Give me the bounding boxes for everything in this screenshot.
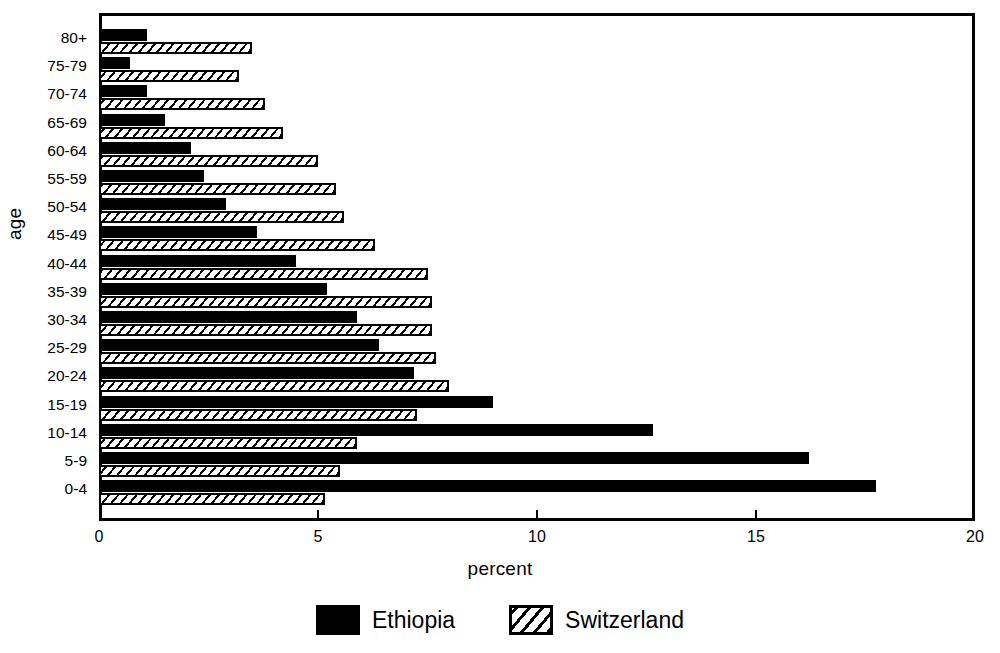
bar-switzerland [99, 465, 340, 477]
chart-legend: Ethiopia Switzerland [0, 605, 1000, 635]
bar-switzerland [99, 409, 417, 421]
y-axis-tick-label: 20-24 [47, 368, 87, 384]
bar-ethiopia [99, 170, 204, 182]
bar-row [99, 452, 975, 480]
bar-ethiopia [99, 311, 357, 323]
bar-ethiopia [99, 452, 809, 464]
bar-row [99, 170, 975, 198]
legend-label-ethiopia: Ethiopia [372, 607, 455, 634]
bars-layer [99, 13, 975, 521]
bar-row [99, 114, 975, 142]
y-axis-tick-label: 30-34 [47, 312, 87, 328]
y-axis-tick-label: 70-74 [47, 86, 87, 102]
bar-ethiopia [99, 283, 327, 295]
bar-ethiopia [99, 29, 147, 41]
y-axis-tick-label: 10-14 [47, 425, 87, 441]
x-axis-tick-mark [755, 510, 757, 521]
legend-item-ethiopia: Ethiopia [316, 605, 455, 635]
y-axis-tick-label: 15-19 [47, 397, 87, 413]
y-axis-tick-label: 0-4 [65, 481, 87, 497]
x-axis-tick-label: 15 [747, 528, 765, 546]
x-axis-tick-mark [317, 510, 319, 521]
y-axis-tick-label: 55-59 [47, 171, 87, 187]
bar-row [99, 85, 975, 113]
bar-row [99, 424, 975, 452]
x-axis-tick-label: 10 [528, 528, 546, 546]
x-axis-tick-mark [536, 510, 538, 521]
y-axis-tick-label: 40-44 [47, 256, 87, 272]
bar-switzerland [99, 296, 432, 308]
bar-ethiopia [99, 480, 876, 492]
x-axis-tick-label: 20 [966, 528, 984, 546]
y-axis-tick-label: 65-69 [47, 115, 87, 131]
population-pyramid-chart: age 80+75-7970-7465-6960-6455-5950-5445-… [0, 0, 1000, 653]
bar-row [99, 198, 975, 226]
bar-ethiopia [99, 226, 257, 238]
bar-row [99, 57, 975, 85]
bar-row [99, 255, 975, 283]
bar-switzerland [99, 42, 252, 54]
bar-row [99, 226, 975, 254]
bar-switzerland [99, 98, 265, 110]
bar-switzerland [99, 324, 432, 336]
bar-row [99, 367, 975, 395]
bar-switzerland [99, 268, 428, 280]
legend-item-switzerland: Switzerland [509, 605, 684, 635]
legend-swatch-hatch-icon [509, 605, 553, 635]
legend-label-switzerland: Switzerland [565, 607, 684, 634]
bar-switzerland [99, 380, 449, 392]
bar-ethiopia [99, 85, 147, 97]
bar-switzerland [99, 127, 283, 139]
x-axis-tick-label: 0 [95, 528, 104, 546]
bar-ethiopia [99, 114, 165, 126]
bar-switzerland [99, 155, 318, 167]
y-axis-tick-label: 35-39 [47, 284, 87, 300]
bar-row [99, 339, 975, 367]
y-axis-tick-label: 25-29 [47, 340, 87, 356]
bar-ethiopia [99, 57, 130, 69]
bar-switzerland [99, 211, 344, 223]
x-axis-tick-label: 5 [314, 528, 323, 546]
y-axis-tick-label: 50-54 [47, 199, 87, 215]
bar-ethiopia [99, 339, 379, 351]
legend-swatch-solid-icon [316, 605, 360, 635]
bar-switzerland [99, 352, 436, 364]
bar-switzerland [99, 493, 325, 505]
bar-row [99, 480, 975, 508]
bar-ethiopia [99, 367, 414, 379]
bar-ethiopia [99, 396, 493, 408]
y-axis-tick-label: 45-49 [47, 227, 87, 243]
bar-row [99, 283, 975, 311]
y-axis-tick-label: 75-79 [47, 58, 87, 74]
y-axis-tick-label: 5-9 [65, 453, 87, 469]
bar-ethiopia [99, 255, 296, 267]
bar-ethiopia [99, 142, 191, 154]
bar-switzerland [99, 70, 239, 82]
bar-row [99, 311, 975, 339]
bar-ethiopia [99, 424, 653, 436]
y-axis-tick-label: 80+ [61, 30, 87, 46]
y-axis-tick-label: 60-64 [47, 143, 87, 159]
y-axis-tick-labels: 80+75-7970-7465-6960-6455-5950-5445-4940… [0, 13, 95, 521]
x-axis-title: percent [0, 558, 1000, 580]
bar-switzerland [99, 239, 375, 251]
bar-switzerland [99, 437, 357, 449]
bar-row [99, 142, 975, 170]
bar-ethiopia [99, 198, 226, 210]
bar-row [99, 29, 975, 57]
bar-switzerland [99, 183, 336, 195]
bar-row [99, 396, 975, 424]
